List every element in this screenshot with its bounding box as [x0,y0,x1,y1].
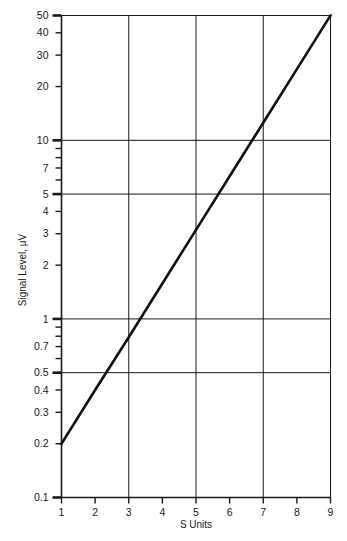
tick-layer [53,16,331,504]
x-tick-label: 1 [59,506,65,518]
y-tick-label: 7 [43,162,49,174]
x-tick-label: 8 [294,506,300,518]
x-tick-label: 3 [126,506,132,518]
y-tick-label: 0.4 [34,384,49,396]
y-tick-label: 40 [37,26,49,38]
y-tick-label: 2 [43,259,49,271]
y-tick-label: 50 [37,9,49,21]
x-tick-label: 7 [260,506,266,518]
semilog-chart: 50403020107543210.70.50.40.30.20.1123456… [0,0,347,541]
y-axis-title: Signal Level, μV [17,233,28,306]
y-tick-label: 30 [37,49,49,61]
x-axis-title: S Units [180,519,212,530]
y-tick-label: 0.3 [34,406,49,418]
x-tick-label: 2 [92,506,98,518]
y-tick-label: 0.5 [34,366,49,378]
y-tick-label: 4 [43,205,49,217]
label-layer: 50403020107543210.70.50.40.30.20.1123456… [34,9,334,517]
y-tick-label: 0.1 [34,491,49,503]
y-tick-label: 10 [37,134,49,146]
y-tick-label: 1 [43,313,49,325]
y-tick-label: 3 [43,227,49,239]
x-tick-label: 9 [328,506,334,518]
x-tick-label: 6 [227,506,233,518]
x-tick-label: 4 [159,506,165,518]
y-tick-label: 5 [43,188,49,200]
grid-layer [62,16,331,498]
y-tick-label: 0.7 [34,340,49,352]
chart-container: 50403020107543210.70.50.40.30.20.1123456… [0,0,347,541]
y-tick-label: 0.2 [34,437,49,449]
x-tick-label: 5 [193,506,199,518]
y-tick-label: 20 [37,80,49,92]
